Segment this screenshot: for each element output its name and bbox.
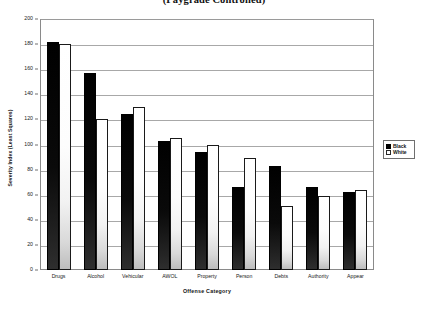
x-tick-label: Authority bbox=[308, 274, 328, 279]
gridline bbox=[41, 196, 373, 197]
y-tick-label: 180 bbox=[24, 41, 33, 46]
legend-label: White bbox=[393, 150, 407, 155]
gridline bbox=[41, 70, 373, 71]
y-tick-label: 200 bbox=[24, 16, 33, 21]
y-tick-label: 100 bbox=[24, 142, 33, 147]
x-tick-label: Debts bbox=[274, 274, 288, 279]
gridline bbox=[41, 120, 373, 121]
x-tick-label: Appear bbox=[347, 274, 364, 279]
y-tick-label: 20 bbox=[27, 242, 33, 247]
y-axis-title: Severity Index (Least Squares) bbox=[7, 83, 13, 213]
y-tick-mark bbox=[35, 194, 38, 195]
y-tick-label: 140 bbox=[24, 92, 33, 97]
gridline bbox=[41, 221, 373, 222]
chart-title: (Paygrade Controlled) bbox=[0, 0, 428, 5]
bar-chart: (Paygrade Controlled) 020406080100120140… bbox=[0, 0, 428, 314]
x-tick-label: Drugs bbox=[52, 274, 66, 279]
x-tick-label: Property bbox=[197, 274, 217, 279]
x-axis: DrugsAlcoholVehicularAWOLPropertyPersonD… bbox=[40, 272, 374, 284]
y-tick-mark bbox=[35, 69, 38, 70]
plot-area bbox=[40, 19, 374, 270]
gridline bbox=[41, 146, 373, 147]
filled-square-icon bbox=[386, 144, 391, 149]
x-tick-label: Vehicular bbox=[122, 274, 143, 279]
y-tick-mark bbox=[35, 19, 38, 20]
gridline bbox=[41, 45, 373, 46]
legend-item: White bbox=[386, 150, 412, 155]
y-tick-label: 160 bbox=[24, 67, 33, 72]
y-axis: 020406080100120140160180200 bbox=[0, 19, 38, 270]
y-tick-mark bbox=[35, 270, 38, 271]
x-axis-title: Offense Category bbox=[40, 288, 374, 294]
y-tick-mark bbox=[35, 169, 38, 170]
y-tick-mark bbox=[35, 244, 38, 245]
y-tick-mark bbox=[35, 119, 38, 120]
gridline bbox=[41, 95, 373, 96]
y-tick-label: 0 bbox=[30, 267, 33, 272]
y-tick-mark bbox=[35, 94, 38, 95]
y-tick-label: 60 bbox=[27, 192, 33, 197]
y-tick-mark bbox=[35, 219, 38, 220]
x-tick-label: AWOL bbox=[162, 274, 177, 279]
outlined-square-icon bbox=[386, 150, 391, 155]
y-tick-mark bbox=[35, 144, 38, 145]
y-tick-mark bbox=[35, 44, 38, 45]
y-tick-label: 120 bbox=[24, 117, 33, 122]
gridline bbox=[41, 171, 373, 172]
gridline bbox=[41, 246, 373, 247]
chart-legend: BlackWhite bbox=[383, 140, 415, 159]
x-tick-label: Alcohol bbox=[87, 274, 104, 279]
x-tick-label: Person bbox=[236, 274, 252, 279]
y-tick-label: 80 bbox=[27, 167, 33, 172]
y-tick-label: 40 bbox=[27, 217, 33, 222]
